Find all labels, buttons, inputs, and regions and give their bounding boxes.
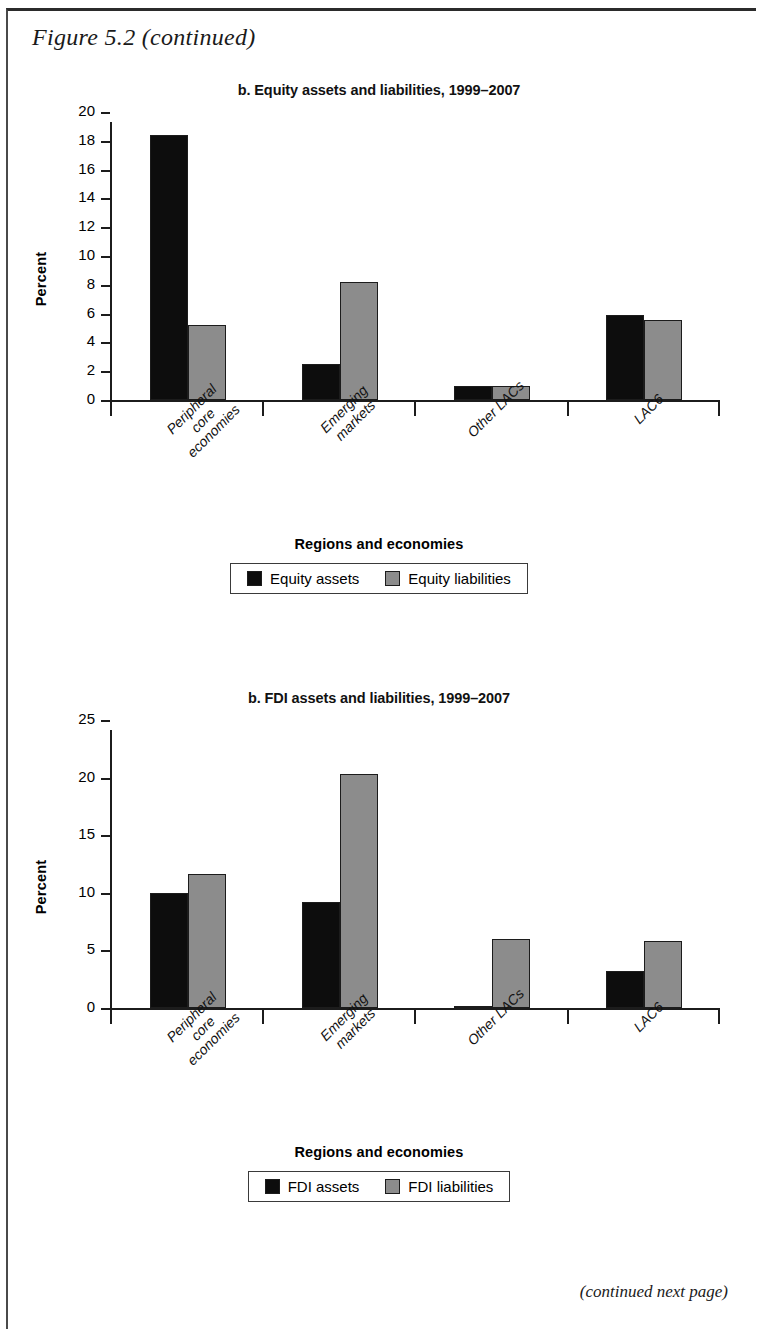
continued-note: (continued next page) <box>580 1282 728 1302</box>
bar-group <box>112 730 264 1008</box>
y-tick-label: 14 <box>61 188 95 205</box>
y-tick: 18 <box>101 141 110 143</box>
x-label-slot: Other LACs <box>416 402 568 444</box>
x-axis-categories-fdi: Peripheral core economiesEmerging market… <box>112 1010 720 1052</box>
y-tick-label: 12 <box>61 217 95 234</box>
bar-group <box>416 730 568 1008</box>
y-tick: 12 <box>101 227 110 229</box>
chart-title-equity: b. Equity assets and liabilities, 1999–2… <box>0 82 758 98</box>
x-label-slot: Peripheral core economies <box>112 402 264 444</box>
legend-label-liabilities: Equity liabilities <box>408 570 511 587</box>
legend-item-assets: FDI assets <box>265 1178 360 1195</box>
y-tick: 14 <box>101 198 110 200</box>
y-tick: 2 <box>101 371 110 373</box>
bar-group <box>112 122 264 400</box>
bar-assets <box>606 971 644 1008</box>
y-tick: 10 <box>101 256 110 258</box>
bar-assets <box>302 364 340 400</box>
y-tick-label: 10 <box>61 246 95 263</box>
y-axis-label-fdi: Percent <box>33 860 49 915</box>
y-tick-label: 20 <box>61 102 95 119</box>
y-tick-label: 16 <box>61 160 95 177</box>
legend-label-assets: Equity assets <box>270 570 359 587</box>
axes-fdi: 0510152025 Peripheral core economiesEmer… <box>110 730 720 1052</box>
bar-assets <box>454 386 492 400</box>
bar-assets <box>150 893 188 1008</box>
x-label-slot: LAC6 <box>568 1010 720 1052</box>
chart-panel-fdi: b. FDI assets and liabilities, 1999–2007… <box>0 690 758 1202</box>
plot-area-fdi: Percent 0510152025 Peripheral core econo… <box>0 722 758 1052</box>
bar-liabilities <box>188 874 226 1008</box>
x-label-slot: Peripheral core economies <box>112 1010 264 1052</box>
y-tick-label: 0 <box>61 390 95 407</box>
legend-item-liabilities: Equity liabilities <box>385 570 511 587</box>
bar-liabilities <box>644 941 682 1008</box>
legend-fdi: FDI assets FDI liabilities <box>248 1171 511 1202</box>
y-tick: 0 <box>101 400 110 402</box>
legend-label-assets: FDI assets <box>288 1178 360 1195</box>
y-tick-label: 10 <box>61 883 95 900</box>
x-axis-categories-equity: Peripheral core economiesEmerging market… <box>112 402 720 444</box>
y-tick-label: 0 <box>61 998 95 1015</box>
bar-assets <box>302 902 340 1008</box>
bar-assets <box>150 135 188 400</box>
legend-item-assets: Equity assets <box>247 570 359 587</box>
x-label-slot: LAC6 <box>568 402 720 444</box>
bar-assets <box>606 315 644 400</box>
bar-assets <box>454 1006 492 1008</box>
y-tick: 4 <box>101 342 110 344</box>
y-tick-label: 8 <box>61 275 95 292</box>
y-tick-label: 25 <box>61 710 95 727</box>
y-tick-label: 6 <box>61 304 95 321</box>
y-tick: 15 <box>101 835 110 837</box>
x-label-slot: Other LACs <box>416 1010 568 1052</box>
bar-series-fdi <box>112 730 720 1008</box>
y-tick-label: 4 <box>61 332 95 349</box>
bar-liabilities <box>644 320 682 400</box>
legend-swatch-liabilities-icon <box>385 1179 400 1194</box>
bar-group <box>264 122 416 400</box>
x-axis-title-fdi: Regions and economies <box>0 1144 758 1160</box>
x-label-slot: Emerging markets <box>264 402 416 444</box>
y-tick: 6 <box>101 314 110 316</box>
y-tick: 0 <box>101 1008 110 1010</box>
bar-group <box>264 730 416 1008</box>
legend-swatch-assets-icon <box>247 571 262 586</box>
plot-area-equity: Percent 02468101214161820 Peripheral cor… <box>0 114 758 444</box>
legend-swatch-assets-icon <box>265 1179 280 1194</box>
legend-swatch-liabilities-icon <box>385 571 400 586</box>
y-tick-label: 15 <box>61 825 95 842</box>
y-tick: 5 <box>101 950 110 952</box>
y-axis-label-equity: Percent <box>33 252 49 307</box>
y-tick: 25 <box>101 720 110 722</box>
y-tick-label: 2 <box>61 361 95 378</box>
chart-panel-equity: b. Equity assets and liabilities, 1999–2… <box>0 82 758 594</box>
y-tick: 20 <box>101 778 110 780</box>
legend-item-liabilities: FDI liabilities <box>385 1178 493 1195</box>
figure-title: Figure 5.2 (continued) <box>32 24 256 51</box>
y-tick: 8 <box>101 285 110 287</box>
y-tick: 16 <box>101 170 110 172</box>
y-tick-label: 18 <box>61 131 95 148</box>
y-tick: 20 <box>101 112 110 114</box>
bar-group <box>568 730 720 1008</box>
y-tick: 10 <box>101 893 110 895</box>
chart-title-fdi: b. FDI assets and liabilities, 1999–2007 <box>0 690 758 706</box>
bar-group <box>568 122 720 400</box>
x-label-slot: Emerging markets <box>264 1010 416 1052</box>
bar-liabilities <box>340 774 378 1008</box>
bar-series-equity <box>112 122 720 400</box>
legend-label-liabilities: FDI liabilities <box>408 1178 493 1195</box>
bar-group <box>416 122 568 400</box>
y-tick-label: 5 <box>61 940 95 957</box>
legend-equity: Equity assets Equity liabilities <box>230 563 528 594</box>
axes-equity: 02468101214161820 Peripheral core econom… <box>110 122 720 444</box>
x-axis-title-equity: Regions and economies <box>0 536 758 552</box>
y-tick-label: 20 <box>61 768 95 785</box>
